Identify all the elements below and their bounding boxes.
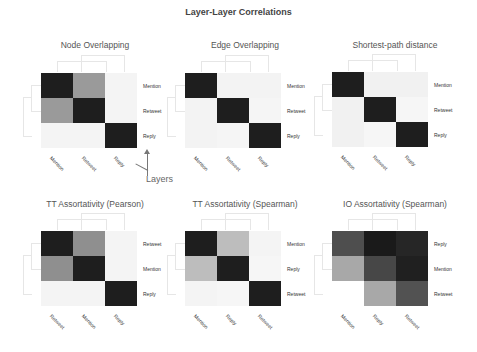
heatmap-cell [185, 98, 217, 123]
column-label: Mention [193, 313, 210, 330]
heatmap-cell [73, 73, 105, 98]
column-label: Retweet [49, 313, 66, 330]
heatmap-cell [105, 281, 137, 306]
heatmap-grid [41, 231, 137, 306]
column-label: Mention [81, 313, 98, 330]
heatmap-cell [105, 256, 137, 281]
heatmap-cell [396, 97, 428, 122]
row-label: Reply [434, 241, 447, 247]
heatmap-cell [217, 73, 249, 98]
column-label: Reply [225, 313, 238, 326]
panel-title: Edge Overlapping [170, 40, 320, 50]
column-label: Retweet [404, 313, 421, 330]
row-dendrogram [314, 255, 323, 295]
heatmap-cell [249, 98, 281, 123]
heatmap-cell [364, 72, 396, 97]
heatmap-cell [217, 256, 249, 281]
heatmap-cell [105, 98, 137, 123]
row-dendrogram [31, 85, 41, 112]
panel-title: TT Assortativity (Pearson) [20, 199, 170, 209]
panel-title: Node Overlapping [20, 40, 170, 50]
panel-title: TT Assortativity (Spearman) [170, 199, 320, 209]
heatmap-grid [185, 73, 281, 148]
heatmap-cell [41, 256, 73, 281]
heatmap-cell [332, 72, 364, 97]
heatmap-cell [73, 281, 105, 306]
heatmap-cell [185, 123, 217, 148]
heatmap-cell [396, 72, 428, 97]
column-label: Reply [113, 313, 126, 326]
column-label: Reply [372, 313, 385, 326]
heatmap-cell [249, 123, 281, 148]
row-label: Mention [287, 241, 305, 247]
heatmap-cell [332, 256, 364, 281]
heatmap-cell [396, 122, 428, 147]
column-label: Reply [404, 154, 417, 167]
heatmap-cell [217, 98, 249, 123]
row-label: Retweet [434, 107, 452, 113]
heatmap-cell [332, 281, 364, 306]
column-label: Retweet [81, 155, 98, 172]
row-dendrogram [314, 96, 323, 136]
column-label: Reply [257, 155, 270, 168]
row-label: Mention [143, 266, 161, 272]
row-label: Retweet [287, 291, 305, 297]
heatmap-cell [185, 231, 217, 256]
heatmap-grid [332, 231, 428, 306]
row-label: Retweet [143, 108, 161, 114]
heatmap-cell [249, 256, 281, 281]
heatmap-cell [41, 231, 73, 256]
column-dendrogram [372, 213, 416, 230]
heatmap-cell [364, 256, 396, 281]
heatmap-cell [332, 122, 364, 147]
heatmap-grid [332, 72, 428, 147]
heatmap-cell [41, 281, 73, 306]
heatmap-cell [73, 231, 105, 256]
column-label: Mention [340, 313, 357, 330]
row-label: Reply [143, 291, 156, 297]
heatmap-cell [249, 231, 281, 256]
row-dendrogram [31, 243, 41, 270]
heatmap-cell [41, 123, 73, 148]
column-label: Reply [113, 155, 126, 168]
heatmap-cell [364, 231, 396, 256]
row-dendrogram [167, 255, 176, 295]
row-dendrogram [23, 255, 32, 295]
row-label: Retweet [287, 108, 305, 114]
row-label: Mention [143, 83, 161, 89]
row-dendrogram [23, 97, 32, 137]
heatmap-cell [185, 73, 217, 98]
heatmap-cell [217, 231, 249, 256]
column-dendrogram [372, 54, 416, 71]
column-label: Mention [340, 154, 357, 171]
row-dendrogram [322, 84, 332, 111]
panel-title: Shortest-path distance [320, 40, 470, 50]
row-label: Retweet [434, 291, 452, 297]
heatmap-cell [105, 73, 137, 98]
column-label: Retweet [372, 154, 389, 171]
figure-title: Layer-Layer Correlations [0, 7, 477, 17]
row-dendrogram [167, 97, 176, 137]
heatmap-cell [185, 256, 217, 281]
heatmap-cell [364, 97, 396, 122]
heatmap-cell [105, 123, 137, 148]
panel-title: IO Assortativity (Spearman) [320, 199, 470, 209]
heatmap-cell [41, 73, 73, 98]
heatmap-cell [185, 281, 217, 306]
row-dendrogram [175, 85, 185, 112]
heatmap-cell [73, 98, 105, 123]
heatmap-cell [217, 281, 249, 306]
row-label: Reply [287, 266, 300, 272]
heatmap-cell [217, 123, 249, 148]
column-label: Retweet [257, 313, 274, 330]
row-label: Mention [287, 83, 305, 89]
row-dendrogram [322, 243, 332, 270]
column-label: Retweet [225, 155, 242, 172]
column-dendrogram [225, 213, 269, 230]
row-label: Reply [143, 133, 156, 139]
layers-annotation: Layers [146, 174, 173, 184]
column-label: Mention [49, 155, 66, 172]
row-label: Mention [434, 266, 452, 272]
heatmap-grid [185, 231, 281, 306]
heatmap-grid [41, 73, 137, 148]
